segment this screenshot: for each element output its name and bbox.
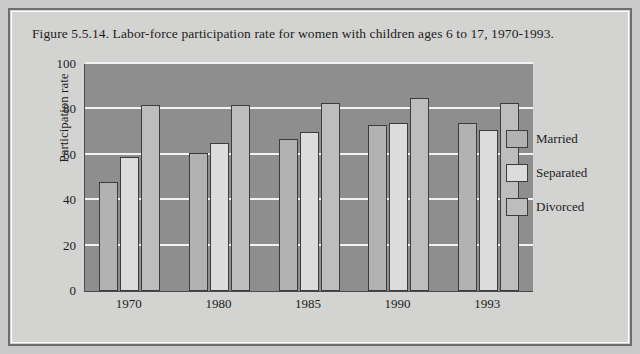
figure-container: Figure 5.5.14. Labor-force participation…	[0, 0, 640, 354]
bar	[321, 103, 340, 291]
bar	[458, 123, 477, 291]
chart-legend: MarriedSeparatedDivorced	[506, 126, 618, 228]
bar	[189, 153, 208, 291]
x-tick-label: 1980	[205, 296, 231, 312]
legend-swatch	[506, 130, 528, 148]
x-tick-label: 1970	[116, 296, 142, 312]
bar	[479, 130, 498, 291]
x-tick-label: 1985	[295, 296, 321, 312]
y-tick-label: 40	[63, 192, 76, 208]
bar	[99, 182, 118, 291]
bar	[389, 123, 408, 291]
y-tick-label: 20	[63, 238, 76, 254]
gridline	[85, 62, 533, 64]
legend-swatch	[506, 164, 528, 182]
y-tick-label: 0	[70, 283, 77, 299]
bar	[210, 143, 229, 291]
bar	[410, 98, 429, 291]
plot-area	[84, 64, 533, 292]
bar	[141, 105, 160, 291]
x-tick-label: 1990	[385, 296, 411, 312]
bar	[120, 157, 139, 291]
legend-item: Married	[506, 126, 618, 152]
legend-label: Separated	[536, 165, 587, 181]
legend-item: Separated	[506, 160, 618, 186]
figure-title: Figure 5.5.14. Labor-force participation…	[32, 26, 554, 42]
y-axis-ticks: 020406080100	[32, 64, 76, 291]
legend-item: Divorced	[506, 194, 618, 220]
bar	[300, 132, 319, 291]
y-tick-label: 100	[57, 56, 77, 72]
bar	[231, 105, 250, 291]
bar	[368, 125, 387, 291]
x-tick-label: 1993	[474, 296, 500, 312]
legend-label: Divorced	[536, 199, 584, 215]
legend-swatch	[506, 198, 528, 216]
legend-label: Married	[536, 131, 578, 147]
y-tick-label: 80	[63, 101, 76, 117]
y-tick-label: 60	[63, 147, 76, 163]
bar	[279, 139, 298, 291]
